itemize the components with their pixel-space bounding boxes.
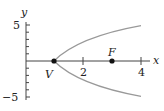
vertex-point — [51, 58, 56, 63]
parabola-chart: y x 5 −5 2 4 V F — [0, 0, 164, 111]
x-tick-label-4: 4 — [138, 66, 145, 79]
x-axis-label: x — [153, 54, 160, 67]
x-tick-label-2: 2 — [80, 66, 87, 79]
y-axis-label: y — [20, 6, 28, 19]
focus-point — [109, 58, 114, 63]
vertex-label: V — [45, 68, 54, 81]
y-tick-label-5: 5 — [13, 19, 20, 32]
y-tick-label-neg5: −5 — [2, 91, 18, 104]
focus-label: F — [107, 46, 116, 59]
